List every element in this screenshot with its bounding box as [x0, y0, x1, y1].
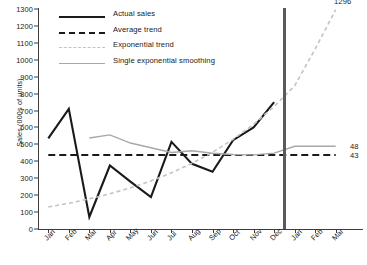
smoothing-endpoint: 48: [350, 142, 359, 151]
series-line-actual-sales: [48, 102, 274, 217]
legend-swatch-icon: [59, 16, 105, 18]
legend-swatch-icon: [59, 63, 105, 64]
legend-label: Average trend: [113, 25, 162, 34]
series-line-single-exponential-smoothing: [89, 135, 335, 155]
sales-forecast-chart: Sales (000s of units) 010020030040050060…: [0, 0, 367, 265]
plot-area: [0, 0, 367, 265]
legend-swatch-icon: [59, 32, 105, 34]
series-line-exponential-trend: [48, 10, 335, 207]
legend-label: Actual sales: [113, 9, 155, 18]
legend-label: Single exponential smoothing: [113, 56, 215, 65]
legend-label: Exponential trend: [113, 40, 174, 49]
forecast-divider-line: [283, 8, 286, 229]
exponential-trend-endpoint: 1296: [334, 0, 351, 6]
legend-swatch-icon: [59, 47, 105, 48]
average-trend-endpoint: 43: [350, 151, 359, 160]
